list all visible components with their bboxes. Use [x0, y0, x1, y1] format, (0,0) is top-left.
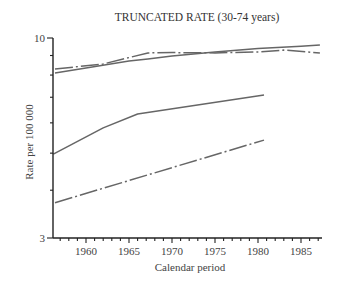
y-axis-label: Rate per 100 000 — [23, 104, 35, 180]
y-tick-label-top: 10 — [34, 32, 46, 44]
x-axis-label: Calendar period — [155, 261, 226, 273]
x-tick-label-1985: 1985 — [290, 245, 313, 257]
x-tick-label-1980: 1980 — [247, 245, 270, 257]
chart: TRUNCATED RATE (30-74 years) 10 3 1960 1… — [0, 0, 343, 290]
series-upper-solid — [55, 45, 320, 73]
series-lower-dash-dot — [55, 140, 264, 203]
y-tick-label-bottom: 3 — [40, 232, 46, 244]
x-tick-label-1965: 1965 — [118, 245, 141, 257]
chart-title: TRUNCATED RATE (30-74 years) — [115, 11, 280, 24]
series-lower-solid — [53, 95, 264, 154]
x-tick-label-1975: 1975 — [204, 245, 227, 257]
x-ticks — [60, 238, 318, 243]
x-tick-label-1960: 1960 — [75, 245, 98, 257]
plot-series — [53, 45, 320, 203]
x-tick-label-1970: 1970 — [161, 245, 184, 257]
